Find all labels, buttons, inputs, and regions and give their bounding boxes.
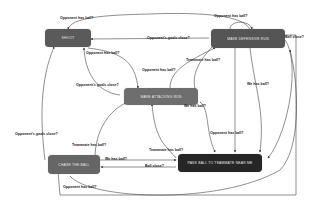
node-make-defensive-run[interactable]: Make defensive run	[211, 29, 285, 48]
edge-label: Ball close?	[145, 165, 164, 169]
edge-label: Opponent has ball?	[210, 132, 244, 136]
edge-label: We has ball?	[105, 158, 127, 162]
edge-label: We has ball?	[247, 83, 269, 87]
edge-label: Opponent's goals close?	[76, 84, 119, 88]
edge-label: Opponent's goals close?	[147, 37, 190, 41]
edge-label: Opponent's goals close?	[15, 133, 58, 137]
edge-label: Opponent has ball?	[214, 15, 248, 19]
edge-label: Opponent has ball?	[86, 52, 120, 56]
edge-label: Teammate has ball?	[72, 144, 106, 148]
edge-label: Teammate has ball?	[149, 149, 183, 153]
edge-label: Teammate has ball?	[186, 59, 220, 63]
node-make-attacking-run[interactable]: Make attacking run	[124, 88, 198, 105]
edge-label: Opponent has ball?	[63, 186, 97, 190]
edge-label: Ball close?	[285, 36, 304, 40]
node-pass-ball-to-teammate[interactable]: Pass ball to teammate near me	[178, 154, 262, 172]
edge-label: Opponent has ball?	[142, 69, 176, 73]
node-shoot[interactable]: Shoot	[45, 29, 91, 47]
edge-label: Opponent has ball?	[60, 17, 94, 21]
edge-label: We has ball?	[184, 105, 206, 109]
node-chase-the-ball[interactable]: Chase the ball	[48, 155, 100, 174]
